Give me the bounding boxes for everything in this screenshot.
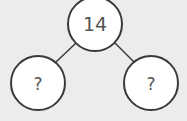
top-number: 14 (68, 0, 122, 51)
left-unknown: ? (11, 57, 65, 111)
right-unknown: ? (124, 57, 178, 111)
